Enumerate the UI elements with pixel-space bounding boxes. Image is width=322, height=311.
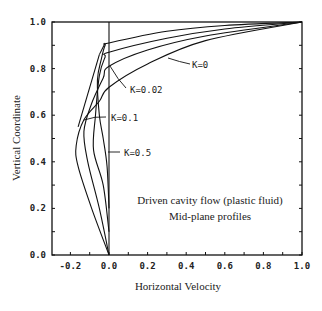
y-tick-label: 0.2 <box>30 203 46 213</box>
x-tick-label: 0.0 <box>101 261 117 271</box>
y-tick-label: 1.0 <box>30 17 46 27</box>
x-tick-label: -0.2 <box>60 261 82 271</box>
label-k01: K=0.1 <box>111 113 138 123</box>
axes: -0.20.00.20.40.60.81.00.00.20.40.60.81.0 <box>30 17 310 271</box>
label-k0: K=0 <box>192 60 208 70</box>
chart: -0.20.00.20.40.60.81.00.00.20.40.60.81.0… <box>0 0 322 311</box>
x-tick-label: 0.8 <box>255 261 271 271</box>
label-k002: K=0.02 <box>130 85 163 95</box>
y-tick-label: 0.8 <box>30 64 46 74</box>
annotation-line2: Mid-plane profiles <box>169 210 251 222</box>
y-tick-label: 0.6 <box>30 110 46 120</box>
x-tick-label: 1.0 <box>294 261 310 271</box>
x-tick-label: 0.2 <box>139 261 155 271</box>
y-tick-label: 0.0 <box>30 250 46 260</box>
x-axis-title: Horizontal Velocity <box>135 280 222 292</box>
label-k05: K=0.5 <box>124 148 151 158</box>
y-axis-title: Vertical Coordinate <box>10 95 22 181</box>
y-tick-label: 0.4 <box>30 157 47 167</box>
leader-k0 <box>168 58 190 64</box>
annotation-line1: Driven cavity flow (plastic fluid) <box>137 194 283 207</box>
x-tick-label: 0.4 <box>178 261 195 271</box>
connector-line <box>78 55 99 127</box>
x-tick-label: 0.6 <box>217 261 233 271</box>
